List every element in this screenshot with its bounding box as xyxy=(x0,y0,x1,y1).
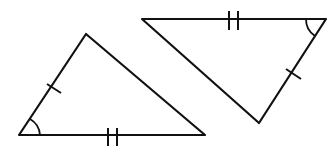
diagram-canvas xyxy=(0,0,335,153)
triangles-figure xyxy=(0,0,335,153)
angle-arc-mark xyxy=(306,19,315,36)
angle-arc-mark xyxy=(30,119,40,135)
triangle-right-outline xyxy=(142,19,326,123)
